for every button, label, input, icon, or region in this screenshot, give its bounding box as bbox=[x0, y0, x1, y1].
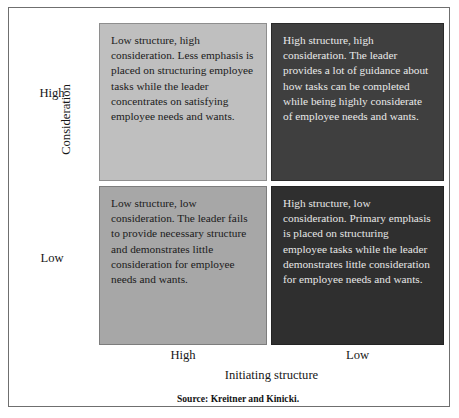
quadrant-high-structure-low-consideration-text: High structure, low consideration. Prima… bbox=[283, 196, 433, 287]
source-note: Source: Kreitner and Kinicki. bbox=[18, 393, 458, 404]
quadrant-low-structure-low-consideration: Low structure, low consideration. The le… bbox=[99, 186, 267, 345]
x-axis-title: Initiating structure bbox=[99, 368, 444, 383]
quadrant-high-structure-low-consideration: High structure, low consideration. Prima… bbox=[271, 186, 444, 345]
y-axis-tick-low: Low bbox=[17, 251, 87, 266]
quadrant-low-structure-high-consideration: Low structure, high consideration. Less … bbox=[99, 23, 267, 181]
quadrant-low-structure-low-consideration-text: Low structure, low consideration. The le… bbox=[111, 196, 256, 287]
quadrant-matrix: Low structure, high consideration. Less … bbox=[99, 23, 444, 345]
quadrant-low-structure-high-consideration-text: Low structure, high consideration. Less … bbox=[111, 33, 256, 124]
x-axis-tick-high: High bbox=[99, 348, 267, 363]
y-axis-tick-high: High bbox=[17, 86, 87, 101]
quadrant-high-structure-high-consideration: High structure, high consideration. The … bbox=[271, 23, 444, 181]
y-axis-title: Consideration bbox=[59, 50, 74, 190]
quadrant-high-structure-high-consideration-text: High structure, high consideration. The … bbox=[283, 33, 433, 124]
x-axis-tick-low: Low bbox=[271, 348, 444, 363]
leadership-grid-figure: Low structure, high consideration. Less … bbox=[0, 0, 459, 418]
figure-frame: Low structure, high consideration. Less … bbox=[8, 7, 450, 407]
